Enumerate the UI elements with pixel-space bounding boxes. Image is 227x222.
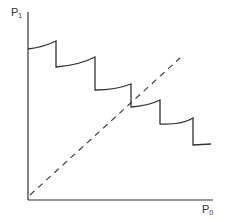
x-axis-label: P0 bbox=[202, 203, 213, 216]
x-label-subscript: 0 bbox=[209, 209, 213, 216]
y-axis-label: P1 bbox=[11, 6, 22, 19]
diagonal-dashed-line bbox=[30, 58, 180, 195]
sawtooth-curve bbox=[28, 41, 211, 145]
chart-canvas bbox=[0, 0, 227, 222]
y-label-subscript: 1 bbox=[18, 12, 22, 19]
